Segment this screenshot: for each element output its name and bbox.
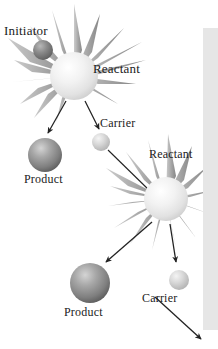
label-product-bottom: Product — [64, 306, 103, 318]
product-sphere-top — [28, 138, 62, 172]
label-product-top: Product — [24, 173, 63, 185]
arrow-reactant-top-to-product-top — [48, 101, 66, 133]
label-carrier-top: Carrier — [100, 117, 135, 129]
arrow-reactant-top-to-carrier-top — [85, 101, 99, 129]
label-reactant-top: Reactant — [93, 62, 140, 75]
reaction-arrows — [48, 101, 201, 339]
chain-reaction-figure: Initiator Reactant Carrier Product React… — [0, 0, 218, 349]
carrier-sphere-top — [92, 133, 110, 151]
label-initiator: Initiator — [4, 24, 48, 37]
label-reactant-bottom: Reactant — [149, 148, 193, 160]
reactant-sphere-bottom — [144, 177, 188, 221]
page-edge-strip — [203, 28, 218, 330]
carrier-sphere-bottom — [169, 270, 189, 290]
arrow-reactant-bottom-to-product-bottom — [106, 222, 152, 262]
reactant-sphere-top — [50, 52, 98, 100]
initiator-sphere — [33, 40, 53, 60]
arrow-reactant-bottom-to-carrier-bottom — [170, 224, 176, 262]
product-sphere-bottom — [70, 263, 110, 303]
label-carrier-bottom: Carrier — [142, 292, 177, 304]
